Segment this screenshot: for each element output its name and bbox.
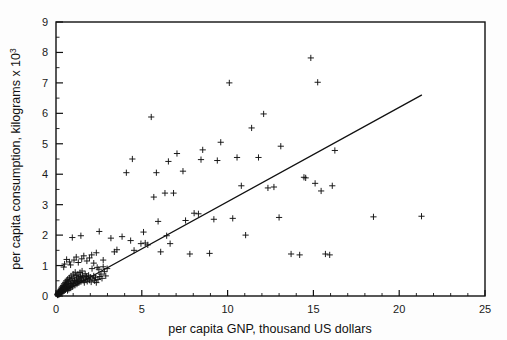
y-tick-label: 7 [42, 77, 48, 89]
y-tick-label: 1 [42, 260, 48, 272]
x-tick-label: 15 [307, 303, 319, 315]
y-tick-label: 0 [42, 290, 48, 302]
y-tick-label: 2 [42, 229, 48, 241]
y-tick-label: 8 [42, 46, 48, 58]
y-tick-label: 4 [42, 168, 48, 180]
x-tick-label: 20 [393, 303, 405, 315]
y-axis-title-group: per capita consumption, kilograms x 103 [8, 48, 23, 270]
x-axis-title: per capita GNP, thousand US dollars [168, 322, 371, 336]
y-axis-title: per capita consumption, kilograms x 103 [8, 48, 23, 270]
x-tick-label: 25 [479, 303, 491, 315]
y-tick-label: 9 [42, 16, 48, 28]
scatter-plot-figure: 05101520250123456789 per capita GNP, tho… [0, 0, 507, 340]
x-tick-label: 0 [53, 303, 59, 315]
y-tick-label: 6 [42, 107, 48, 119]
x-tick-label: 10 [221, 303, 233, 315]
x-tick-label: 5 [139, 303, 145, 315]
y-tick-label: 3 [42, 199, 48, 211]
y-tick-label: 5 [42, 138, 48, 150]
plot-canvas: 05101520250123456789 per capita GNP, tho… [0, 0, 507, 340]
plot-frame [56, 22, 485, 296]
axes-rectangle [56, 22, 485, 296]
